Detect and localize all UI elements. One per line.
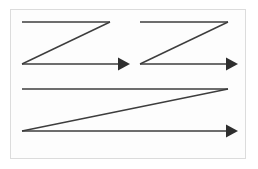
scan-path-top-left-diagonal-retrace (22, 22, 110, 64)
scan-path-top-left (22, 22, 130, 71)
scan-pattern-diagram (0, 0, 258, 169)
scan-path-bottom-wide-arrowhead-icon (226, 125, 238, 138)
scan-path-bottom-wide (22, 89, 238, 138)
figure-canvas (0, 0, 258, 169)
scan-paths-group (22, 22, 238, 138)
scan-path-top-left-arrowhead-icon (118, 58, 130, 71)
scan-path-top-right (140, 22, 238, 71)
scan-path-top-right-diagonal-retrace (140, 22, 228, 64)
scan-path-bottom-wide-diagonal-retrace (22, 89, 228, 131)
scan-path-top-right-arrowhead-icon (226, 58, 238, 71)
